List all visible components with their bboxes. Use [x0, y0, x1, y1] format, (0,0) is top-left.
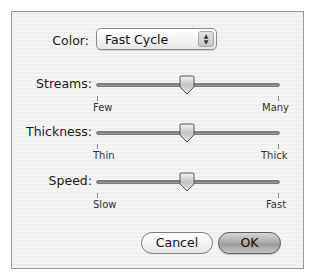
- streams-tick-max: [278, 96, 279, 101]
- speed-tick-max: [278, 193, 279, 198]
- streams-max-label: Many: [262, 102, 289, 113]
- speed-max-label: Fast: [266, 199, 286, 210]
- up-down-arrows-icon: ▲▼: [198, 31, 214, 47]
- speed-label: Speed:: [10, 173, 92, 188]
- speed-tick-min: [97, 193, 98, 198]
- thickness-min-label: Thin: [93, 150, 115, 161]
- thickness-tick-max: [278, 144, 279, 149]
- streams-label: Streams:: [10, 76, 92, 91]
- streams-min-label: Few: [93, 102, 113, 113]
- color-popup-value: Fast Cycle: [105, 32, 168, 47]
- color-popup[interactable]: Fast Cycle ▲▼: [96, 28, 217, 50]
- speed-min-label: Slow: [93, 199, 116, 210]
- thickness-slider-thumb-icon[interactable]: [179, 123, 195, 143]
- ok-button[interactable]: OK: [218, 232, 281, 254]
- thickness-tick-min: [97, 144, 98, 149]
- speed-slider-thumb-icon[interactable]: [179, 172, 195, 192]
- thickness-label: Thickness:: [10, 124, 92, 139]
- streams-slider-thumb-icon[interactable]: [179, 75, 195, 95]
- thickness-max-label: Thick: [261, 150, 288, 161]
- cancel-button[interactable]: Cancel: [141, 232, 213, 254]
- color-label: Color:: [37, 33, 89, 48]
- streams-tick-min: [97, 96, 98, 101]
